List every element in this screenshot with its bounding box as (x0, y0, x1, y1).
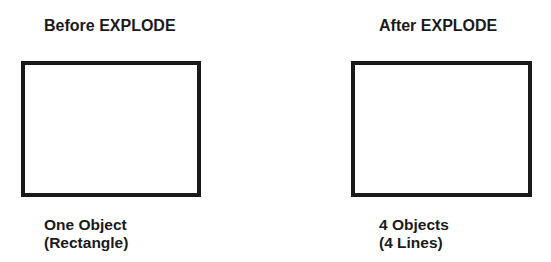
after-caption: 4 Objects (4 Lines) (379, 216, 449, 252)
after-caption-line1: 4 Objects (379, 216, 449, 234)
before-title: Before EXPLODE (44, 17, 176, 35)
before-caption: One Object (Rectangle) (44, 216, 128, 252)
after-title: After EXPLODE (379, 17, 497, 35)
before-caption-line2: (Rectangle) (44, 234, 128, 252)
rectangle-single-object (21, 61, 201, 197)
rectangle-four-lines (351, 61, 532, 197)
before-caption-line1: One Object (44, 216, 128, 234)
after-caption-line2: (4 Lines) (379, 234, 449, 252)
